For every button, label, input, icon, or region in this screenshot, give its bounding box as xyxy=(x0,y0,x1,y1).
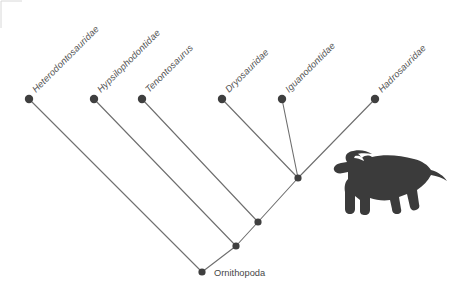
hadrosaur-crest-shape xyxy=(350,150,372,155)
frame-corner-mark xyxy=(1,1,22,28)
internal-node-node-clade-2 xyxy=(232,242,239,249)
branch-node-iguanodontia-to-dryosauridae xyxy=(222,99,298,178)
taxon-label-dryosauridae: Dryosauridae xyxy=(223,47,270,94)
hadrosaur-body-shape xyxy=(334,152,447,215)
tip-node-tenontosaurus xyxy=(138,95,146,103)
internal-node-node-root xyxy=(198,268,205,275)
label-group: HeterodontosauridaeHypsilophodontidaeTen… xyxy=(30,24,428,94)
branch-node-clade-3-to-tenontosaurus xyxy=(142,99,258,222)
tip-node-hypsilophodontidae xyxy=(90,95,98,103)
branch-node-clade-2-to-hypsilophodontidae xyxy=(94,99,236,246)
branch-node-clade-3-to-node-iguanodontia xyxy=(258,178,298,222)
taxon-label-iguanodontidae: Iguanodontidae xyxy=(283,41,337,95)
internal-node-node-clade-3 xyxy=(254,218,261,225)
node-group xyxy=(25,95,379,276)
tip-node-heterodontosauridae xyxy=(25,95,33,103)
cladogram-figure: HeterodontosauridaeHypsilophodontidaeTen… xyxy=(0,0,466,301)
taxon-label-heterodontosauridae: Heterodontosauridae xyxy=(30,24,100,94)
taxon-label-tenontosaurus: Tenontosaurus xyxy=(143,43,195,95)
branch-node-iguanodontia-to-iguanodontidae xyxy=(282,99,298,178)
hadrosaur-silhouette xyxy=(334,150,447,215)
branch-node-clade-2-to-node-clade-3 xyxy=(236,222,258,246)
root-label: Ornithopoda xyxy=(214,268,266,278)
tip-node-hadrosauridae xyxy=(371,95,379,103)
tip-node-iguanodontidae xyxy=(278,95,286,103)
branch-node-root-to-heterodontosauridae xyxy=(29,99,202,272)
tip-node-dryosauridae xyxy=(218,95,226,103)
branch-group xyxy=(29,99,375,272)
taxon-label-hadrosauridae: Hadrosauridae xyxy=(376,43,428,95)
cladogram-canvas: HeterodontosauridaeHypsilophodontidaeTen… xyxy=(0,0,466,301)
internal-node-node-iguanodontia xyxy=(294,174,301,181)
